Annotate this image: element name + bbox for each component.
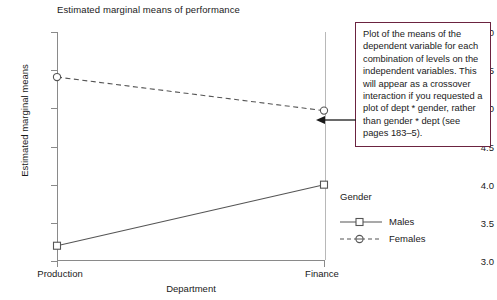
y-tick bbox=[51, 223, 57, 224]
legend-item-females: Females bbox=[340, 230, 480, 247]
x-tick bbox=[57, 261, 58, 267]
x-axis-title: Department bbox=[57, 283, 325, 294]
legend-label-males: Males bbox=[389, 216, 414, 227]
chart-legend: Gender Males Females bbox=[340, 191, 480, 247]
legend-label-females: Females bbox=[389, 233, 425, 244]
y-tick bbox=[51, 185, 57, 186]
y-tick-label: 3.0 bbox=[451, 256, 497, 267]
callout-arrow-icon bbox=[316, 114, 356, 126]
y-tick bbox=[51, 70, 57, 71]
x-tick bbox=[324, 261, 325, 267]
y-tick bbox=[51, 108, 57, 109]
y-tick-label: 4.0 bbox=[451, 179, 497, 190]
x-tick-label: Finance bbox=[305, 268, 339, 279]
y-tick bbox=[51, 32, 57, 33]
legend-key-dashed-circle-icon bbox=[340, 233, 382, 245]
legend-key-solid-square-icon bbox=[340, 216, 382, 228]
chart-title: Estimated marginal means of performance bbox=[57, 4, 240, 15]
plot-frame bbox=[57, 32, 325, 261]
y-tick bbox=[51, 147, 57, 148]
y-axis-title: Estimated marginal means bbox=[19, 56, 30, 186]
x-tick-label: Production bbox=[37, 268, 82, 279]
annotation-callout: Plot of the means of the dependent varia… bbox=[355, 22, 491, 147]
legend-title: Gender bbox=[340, 191, 480, 202]
legend-item-males: Males bbox=[340, 213, 480, 230]
